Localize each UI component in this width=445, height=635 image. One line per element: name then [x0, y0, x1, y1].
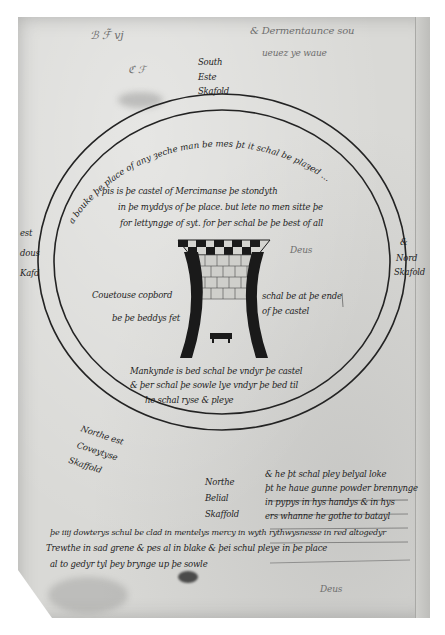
- footer-mark: Deus: [320, 584, 342, 595]
- top-small-mark: ℭ ℱ: [128, 64, 146, 75]
- top-scribble-left: ℬ ℱ̃ vj: [90, 30, 123, 41]
- top-scribble-right-2: ueuez ye waue: [262, 48, 327, 59]
- bed-icon: [210, 333, 232, 339]
- top-scribble-right-1: & Dermentaunce sou: [250, 25, 354, 36]
- castle-tower: [178, 240, 270, 358]
- side-mark: Deus: [290, 245, 312, 256]
